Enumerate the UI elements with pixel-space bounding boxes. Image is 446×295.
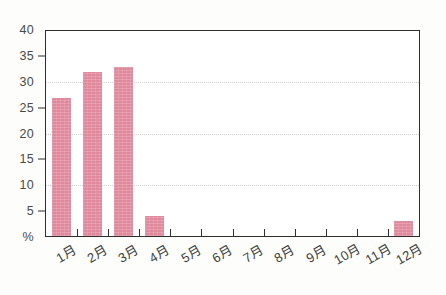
- y-axis-tick-label: 35: [19, 49, 34, 63]
- x-axis-category-label: 6月: [208, 240, 235, 267]
- x-axis: 1月2月3月4月5月6月7月8月9月10月11月12月: [45, 239, 420, 295]
- y-axis-tick-mark: [38, 211, 45, 212]
- x-axis-tick-mark: [201, 229, 202, 236]
- y-axis: 403530252015105%: [0, 30, 40, 237]
- chart-page: 403530252015105% 1月2月3月4月5月6月7月8月9月10月11…: [0, 0, 446, 295]
- x-axis-category-label: 8月: [270, 240, 297, 267]
- x-axis-category-label: 9月: [302, 240, 329, 267]
- x-axis-category-label: 5月: [177, 240, 204, 267]
- x-axis-tick-mark: [139, 229, 140, 236]
- y-axis-tick-label: 15: [19, 152, 34, 166]
- x-axis-category-label: 10月: [330, 238, 364, 268]
- y-axis-tick-label: 20: [19, 127, 34, 141]
- x-axis-category-label: 4月: [145, 240, 172, 267]
- y-axis-tick-label: 5: [27, 204, 34, 218]
- y-axis-tick-mark: [38, 55, 45, 56]
- x-axis-tick-mark: [233, 229, 234, 236]
- x-axis-tick-mark: [108, 229, 109, 236]
- x-axis-category-label: 3月: [114, 240, 141, 267]
- y-axis-tick-mark: [38, 107, 45, 108]
- y-axis-tick-label: 40: [19, 23, 34, 37]
- x-axis-tick-mark: [357, 229, 358, 236]
- x-axis-category-label: 11月: [361, 238, 394, 268]
- plot-area: [45, 30, 420, 237]
- x-axis-tick-mark: [326, 229, 327, 236]
- y-axis-tick-mark: [38, 159, 45, 160]
- y-axis-tick-label: 30: [19, 75, 34, 89]
- x-axis-tick-mark: [77, 229, 78, 236]
- y-axis-tick-label: 25: [19, 101, 34, 115]
- x-axis-tick-mark: [295, 229, 296, 236]
- x-axis-tick-mark: [170, 229, 171, 236]
- x-axis-tick-mark: [388, 229, 389, 236]
- x-axis-category-label: 1月: [52, 240, 79, 267]
- x-tick-marks: [46, 31, 419, 236]
- x-axis-category-label: 2月: [83, 240, 110, 267]
- y-axis-unit-label: %: [23, 230, 34, 244]
- x-axis-tick-mark: [264, 229, 265, 236]
- x-axis-category-label: 7月: [239, 240, 266, 267]
- x-axis-category-label: 12月: [392, 238, 426, 268]
- y-axis-tick-label: 10: [19, 178, 34, 192]
